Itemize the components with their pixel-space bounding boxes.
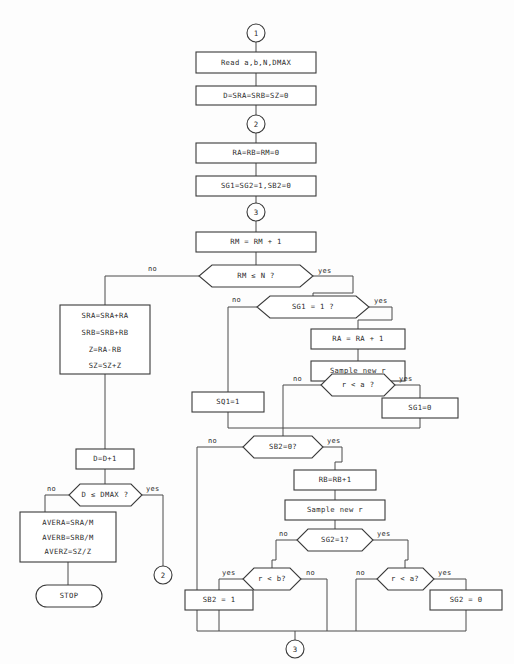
label-r-lt-a-bot-yes: yes	[438, 569, 452, 577]
node-r-lt-a-bot: r < a?	[377, 568, 434, 590]
connector-3-bottom: 3	[286, 640, 304, 658]
node-r-lt-a-top: r < a ?	[321, 374, 395, 396]
node-rm-test-label: RM ≤ N ?	[237, 271, 274, 280]
node-r-lt-a-top-label: r < a ?	[342, 380, 375, 389]
node-averages-line-3: AVERZ=SZ/Z	[45, 547, 92, 556]
label-r-lt-b-no: no	[306, 569, 315, 577]
node-init-sg: SG1=SG2=1,SB2=0	[196, 176, 316, 196]
edge-sg2test-yes	[373, 540, 408, 568]
node-accumulate-line-3: Z=RA-RB	[89, 345, 122, 354]
connector-2-top-label: 2	[254, 120, 258, 129]
label-r-lt-a-bot-no: no	[356, 569, 365, 577]
label-d-test-no: no	[47, 485, 56, 493]
node-sg2-set0: SG2 = 0	[430, 590, 502, 610]
connector-3-top: 3	[247, 203, 265, 221]
node-rb-inc: RB=RB+1	[294, 470, 376, 490]
node-stop: STOP	[36, 585, 102, 607]
node-r-lt-b-label: r < b?	[258, 574, 286, 583]
node-d-inc-label: D=D+1	[93, 454, 116, 463]
connector-2-bottom-label: 2	[161, 571, 165, 580]
node-d-inc: D=D+1	[76, 449, 134, 469]
node-averages-line-2: AVERB=SRB/M	[42, 533, 94, 542]
edge-rltb-no	[301, 579, 327, 631]
connector-1-label: 1	[254, 29, 258, 38]
connector-2-top: 2	[247, 115, 265, 133]
node-sq1-set1: SQ1=1	[192, 392, 264, 412]
node-rb-inc-label: RB=RB+1	[319, 475, 352, 484]
flowchart-svg: 1 2 3 2 3 Read a,b,N,DMAX D=SRA=SRB=SZ=0	[0, 0, 514, 664]
edge-dtest-no	[45, 495, 69, 512]
node-rm-inc: RM = RM + 1	[196, 232, 316, 252]
node-accumulate-line-4: SZ=SZ+Z	[89, 361, 122, 370]
label-r-lt-b-yes: yes	[222, 569, 236, 577]
flowchart-canvas: 1 2 3 2 3 Read a,b,N,DMAX D=SRA=SRB=SZ=0	[0, 0, 514, 664]
node-averages: AVERA=SRA/M AVERB=SRB/M AVERZ=SZ/Z	[20, 512, 116, 562]
label-sb2-test-no: no	[208, 437, 217, 445]
node-sg2-set0-label: SG2 = 0	[450, 595, 483, 604]
label-sg2-test-no: no	[279, 530, 288, 538]
node-init-d: D=SRA=SRB=SZ=0	[196, 86, 316, 105]
node-read-label: Read a,b,N,DMAX	[221, 58, 291, 67]
label-sg2-test-yes: yes	[377, 530, 391, 538]
node-r-lt-b: r < b?	[243, 568, 301, 590]
label-sb2-test-yes: yes	[327, 437, 341, 445]
node-averages-line-1: AVERA=SRA/M	[42, 518, 94, 527]
edge-sg1set0-merge	[283, 418, 420, 428]
node-sb2-set1-label: SB2 = 1	[203, 595, 236, 604]
edge-sq1set1-merge	[228, 412, 283, 428]
node-accumulate: SRA=SRA+RA SRB=SRB+RB Z=RA-RB SZ=SZ+Z	[60, 305, 150, 374]
node-sg1-set0-label: SG1=0	[408, 403, 431, 412]
label-rm-test-no: no	[148, 265, 157, 273]
node-ra-inc: RA = RA + 1	[311, 329, 405, 349]
node-sample-r-b: Sample new r	[285, 500, 385, 520]
node-read: Read a,b,N,DMAX	[196, 52, 316, 73]
connector-3-bottom-label: 3	[293, 645, 297, 654]
node-d-test: D ≤ DMAX ?	[69, 484, 142, 506]
label-r-lt-a-top-no: no	[293, 375, 302, 383]
label-sg1-test-yes: yes	[374, 297, 388, 305]
node-init-d-label: D=SRA=SRB=SZ=0	[223, 91, 288, 100]
node-rm-inc-label: RM = RM + 1	[230, 237, 281, 246]
label-sg1-test-no: no	[232, 296, 241, 304]
node-sb2-test: SB2=0?	[243, 436, 323, 458]
node-sb2-set1: SB2 = 1	[185, 590, 253, 610]
edge-rltabot-yes	[434, 579, 466, 590]
edge-rltatop-no	[283, 385, 321, 428]
node-d-test-label: D ≤ DMAX ?	[82, 490, 129, 499]
node-accumulate-line-2: SRB=SRB+RB	[82, 328, 129, 337]
node-init-sg-label: SG1=SG2=1,SB2=0	[221, 181, 291, 190]
edge-rltatop-yes	[395, 385, 420, 398]
edge-rmtest-no	[105, 276, 199, 305]
node-sb2-test-label: SB2=0?	[269, 442, 297, 451]
label-d-test-yes: yes	[146, 485, 160, 493]
node-sg1-test-label: SG1 = 1 ?	[292, 302, 334, 311]
node-ra-inc-label: RA = RA + 1	[332, 334, 383, 343]
edge-sg2test-no	[272, 540, 297, 568]
label-r-lt-a-top-yes: yes	[399, 375, 413, 383]
node-sg1-test: SG1 = 1 ?	[257, 296, 369, 318]
node-r-lt-a-bot-label: r < a?	[391, 574, 419, 583]
node-init-ra-label: RA=RB=RM=0	[233, 148, 280, 157]
edge-dtest-yes	[142, 495, 163, 566]
connector-3-top-label: 3	[254, 208, 258, 217]
node-sg2-test: SG2=1?	[297, 529, 373, 551]
node-sg2-test-label: SG2=1?	[321, 535, 349, 544]
node-stop-label: STOP	[60, 591, 79, 600]
node-init-ra: RA=RB=RM=0	[196, 143, 316, 163]
connector-1: 1	[247, 24, 265, 42]
node-accumulate-line-1: SRA=SRA+RA	[82, 311, 129, 320]
label-rm-test-yes: yes	[318, 267, 332, 275]
node-sq1-set1-label: SQ1=1	[216, 397, 239, 406]
node-sg1-set0: SG1=0	[382, 398, 458, 418]
node-sample-r-b-label: Sample new r	[307, 505, 363, 514]
connector-2-bottom: 2	[154, 566, 172, 584]
edge-rltabot-no	[356, 579, 377, 631]
edge-sb2test-yes	[323, 447, 342, 470]
node-rm-test: RM ≤ N ?	[199, 265, 313, 287]
edge-sg1test-no	[228, 307, 257, 392]
edge-rltb-yes	[219, 579, 243, 590]
